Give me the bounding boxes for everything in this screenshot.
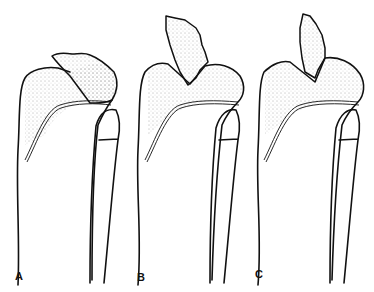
panel-label-a: A bbox=[15, 270, 23, 282]
figure-canvas bbox=[0, 0, 374, 292]
panel-c-illustration bbox=[258, 14, 364, 285]
panel-label-c: C bbox=[255, 268, 263, 280]
fibula-a bbox=[90, 110, 119, 283]
panel-a-illustration bbox=[17, 53, 119, 285]
tibia-a-front bbox=[92, 100, 112, 280]
fibula-c bbox=[330, 110, 359, 283]
fibula-b bbox=[210, 110, 239, 283]
panel-b-illustration bbox=[138, 16, 244, 285]
panel-label-b: B bbox=[137, 271, 145, 283]
